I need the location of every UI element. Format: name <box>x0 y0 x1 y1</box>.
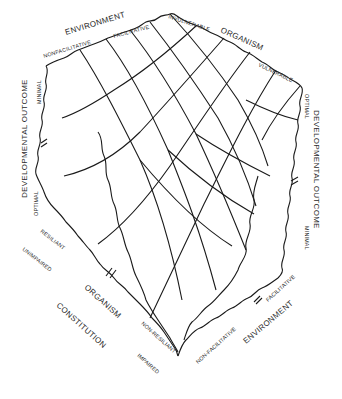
bottom-right-axis-high-label: FACILITATIVE <box>265 273 297 302</box>
top-right-axis-title: ORGANISM <box>219 26 265 53</box>
bottom-left-axis-subtitle: CONSTITUTION <box>55 301 108 350</box>
top-left-axis-high-label: FACILITATIVE <box>113 24 150 39</box>
left-axis-title: DEVELOPMENTAL OUTCOME <box>20 79 29 198</box>
left-axis-top-label: MINIMAL <box>36 80 42 104</box>
surface-right-edge <box>278 88 302 278</box>
bottom-right-axis-title: ENVIRONMENT <box>242 299 296 346</box>
top-right-axis-high-label: VULNERABLE <box>258 62 295 84</box>
bottom-left-axis-low2-label: IMPAIRED <box>136 352 160 375</box>
front-right-break-mark <box>254 296 262 304</box>
right-axis-bottom-label: MINIMAL <box>304 226 310 250</box>
left-axis-bottom-label: OPTIMAL <box>33 191 39 216</box>
bottom-right-axis-low-label: NON-FACILITATIVE <box>195 326 237 365</box>
bottom-left-axis-high-label: RESILIANT <box>39 228 66 251</box>
front-left-break-mark <box>106 268 116 278</box>
surface-inner-left-edge <box>98 132 178 352</box>
right-axis-title: DEVELOPMENTAL OUTCOME <box>312 110 321 229</box>
top-right-axis-low-label: INVULNERABLE <box>168 13 211 32</box>
right-axis-top-label: OPTIMAL <box>304 94 310 119</box>
bottom-left-axis-title: ORGANISM <box>83 283 123 320</box>
developmental-surface-diagram: ENVIRONMENT NONFACILITATIVE FACILITATIVE… <box>0 0 342 399</box>
surface-front-right-edge <box>178 278 278 356</box>
bottom-left-axis-high2-label: UNIMPAIRED <box>21 246 53 273</box>
left-edge-break-mark <box>41 139 47 147</box>
